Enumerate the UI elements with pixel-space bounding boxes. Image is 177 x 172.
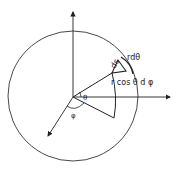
diagram-svg: ds rdθ r cos θ d φ θ φ (0, 0, 177, 172)
oblique-axis (48, 97, 73, 136)
label-theta: θ (83, 94, 87, 102)
label-phi: φ (71, 112, 76, 120)
radius-line-upper (73, 73, 112, 97)
label-ds: ds (109, 58, 121, 70)
label-r-dtheta: rdθ (127, 53, 140, 62)
phi-arc (67, 103, 84, 108)
label-r-cos-theta-dphi: r cos θ d φ (111, 78, 153, 87)
radius-line-lower (73, 97, 114, 118)
spherical-coordinates-diagram: ds rdθ r cos θ d φ θ φ (0, 0, 177, 172)
